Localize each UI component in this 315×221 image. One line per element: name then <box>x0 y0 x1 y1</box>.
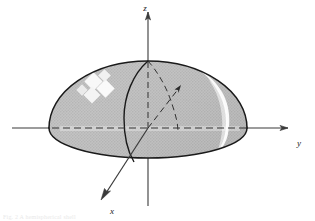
figure-container: y z <box>0 0 315 221</box>
hemisphere-diagram: y z <box>0 0 315 221</box>
z-axis-label: z <box>142 3 147 13</box>
equator-light-band <box>60 126 240 131</box>
figure-caption: Fig. 2 A hemispherical shell <box>3 214 153 221</box>
y-axis-label: y <box>296 138 301 148</box>
